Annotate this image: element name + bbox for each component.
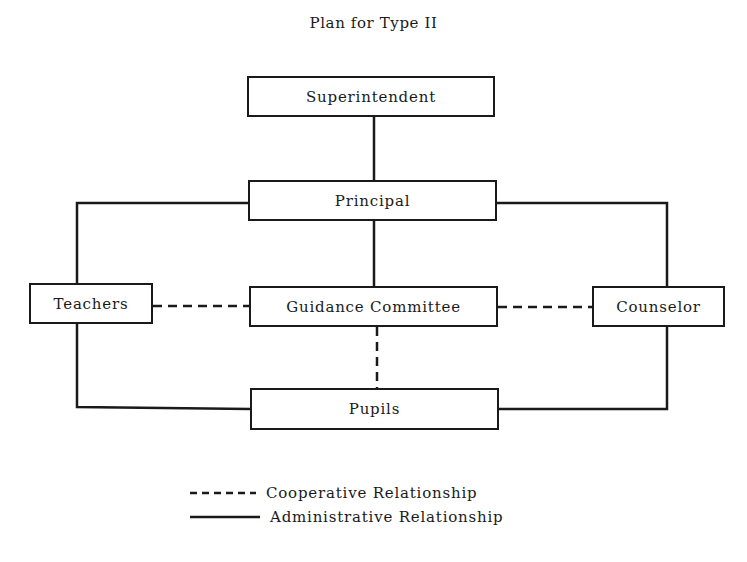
node-principal: Principal bbox=[248, 180, 497, 221]
node-teachers: Teachers bbox=[29, 283, 153, 324]
node-label: Principal bbox=[335, 192, 410, 210]
node-superintendent: Superintendent bbox=[247, 76, 495, 117]
node-label: Teachers bbox=[54, 295, 129, 313]
node-counselor: Counselor bbox=[592, 286, 725, 327]
line-principal-counselor bbox=[497, 203, 667, 286]
line-principal-teachers bbox=[77, 203, 248, 283]
node-guidance-committee: Guidance Committee bbox=[249, 286, 498, 327]
node-label: Guidance Committee bbox=[286, 298, 461, 316]
node-label: Counselor bbox=[616, 298, 701, 316]
line-teachers-pupils bbox=[77, 324, 250, 409]
legend-administrative-label: Administrative Relationship bbox=[270, 508, 503, 526]
legend-administrative: Administrative Relationship bbox=[190, 508, 503, 526]
line-counselor-pupils bbox=[499, 327, 667, 409]
legend-cooperative-label: Cooperative Relationship bbox=[266, 484, 477, 502]
solid-line-icon bbox=[190, 514, 260, 520]
node-pupils: Pupils bbox=[250, 388, 499, 430]
node-label: Pupils bbox=[349, 400, 400, 418]
node-label: Superintendent bbox=[306, 88, 436, 106]
legend-cooperative: Cooperative Relationship bbox=[190, 484, 477, 502]
dashed-line-icon bbox=[190, 490, 256, 496]
